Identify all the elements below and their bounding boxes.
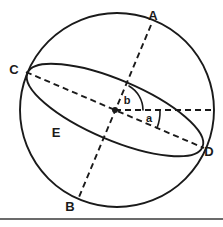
point-label-e: E — [52, 125, 61, 140]
point-label-a: A — [148, 8, 158, 23]
angle-label-a: a — [146, 112, 153, 124]
center-dot-icon — [112, 107, 118, 113]
point-label-d: D — [204, 144, 213, 159]
point-label-c: C — [9, 62, 19, 77]
angle-arc-a — [157, 110, 160, 128]
point-label-b: B — [65, 199, 74, 214]
sphere-diagram: A B C D E b a — [0, 0, 223, 227]
angle-label-b: b — [124, 94, 131, 106]
diagram-canvas: A B C D E b a — [0, 0, 223, 227]
